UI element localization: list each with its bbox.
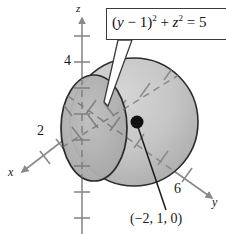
- axis-z-tick-label-4: 4: [64, 54, 71, 68]
- equation-label: (y − 1)2 + z2 = 5: [112, 14, 206, 31]
- equation-result: 5: [199, 14, 207, 30]
- point-marker-dot: [131, 116, 144, 129]
- axis-y-label: y: [212, 196, 217, 208]
- point-coordinate-label: (−2, 1, 0): [130, 212, 182, 226]
- equation-plus: +: [157, 14, 173, 30]
- axis-y-tick-label-6: 6: [174, 182, 181, 196]
- equation-variable-y: y: [117, 14, 124, 30]
- axis-z-label: z: [76, 3, 80, 14]
- equation-equals: =: [183, 14, 199, 30]
- sphere-cross-section-figure: ) z x y 4 2 6 (y − 1)2 + z2 = 5 (−2, 1, …: [0, 0, 226, 234]
- axis-x-tick-label-2: 2: [37, 124, 44, 138]
- axis-x-label: x: [8, 166, 13, 178]
- equation-minus: −: [124, 14, 140, 30]
